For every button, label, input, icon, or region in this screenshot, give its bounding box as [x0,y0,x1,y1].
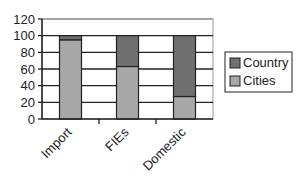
x-tick-label: Import [38,124,75,161]
legend: Country Cities [225,52,292,92]
y-tick-label: 0 [28,112,35,127]
y-tick-label: 100 [13,28,35,43]
bar-segment-cities [174,97,196,120]
stacked-bar-chart: 020406080100120 ImportFIEsDomestic Count… [0,0,306,189]
bar-segment-cities [117,67,139,120]
bar-segment-country [174,36,196,97]
bars [60,36,196,119]
legend-label-cities: Cities [243,73,276,88]
y-tick-label: 20 [21,95,35,110]
legend-swatch-cities [230,76,240,86]
x-labels: ImportFIEsDomestic [38,124,189,173]
y-tick-label: 40 [21,78,35,93]
bar-segment-cities [60,40,82,119]
bar-segment-country [117,36,139,67]
y-tick-label: 80 [21,45,35,60]
bar-segment-country [60,36,82,40]
legend-swatch-country [230,58,240,68]
y-ticks: 020406080100120 [13,12,42,127]
x-tick-label: Domestic [140,124,189,173]
x-tick-label: FIEs [102,124,132,154]
y-tick-label: 60 [21,62,35,77]
legend-label-country: Country [243,55,289,70]
y-tick-label: 120 [13,12,35,27]
